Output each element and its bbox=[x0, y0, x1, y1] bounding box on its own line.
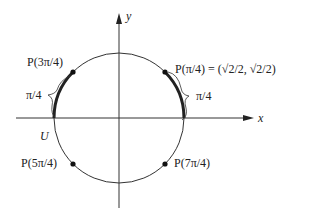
point-label-3pi-4: P(3π/4) bbox=[27, 55, 63, 69]
x-axis-label: x bbox=[257, 111, 264, 125]
y-axis-label: y bbox=[125, 9, 132, 23]
arc-label-right: π/4 bbox=[196, 89, 211, 103]
arc-left-highlight bbox=[54, 72, 73, 118]
x-axis-arrow-icon bbox=[243, 115, 254, 121]
point-7pi-4 bbox=[162, 161, 167, 166]
point-label-pi-4: P(π/4) = (√2/2, √2/2) bbox=[175, 62, 276, 76]
point-label-5pi-4: P(5π/4) bbox=[21, 156, 57, 170]
arc-label-left: π/4 bbox=[26, 88, 41, 102]
point-3pi-4 bbox=[70, 69, 75, 74]
unit-circle-diagram: y x U P(π/4) = (√2/2, √2/2) P(3π/4) P(5π… bbox=[0, 0, 311, 216]
arc-right-highlight bbox=[165, 72, 184, 118]
point-5pi-4 bbox=[70, 161, 75, 166]
y-axis-arrow-icon bbox=[116, 13, 122, 24]
circle-label: U bbox=[40, 129, 50, 143]
point-pi-4 bbox=[162, 69, 167, 74]
point-label-7pi-4: P(7π/4) bbox=[174, 156, 210, 170]
